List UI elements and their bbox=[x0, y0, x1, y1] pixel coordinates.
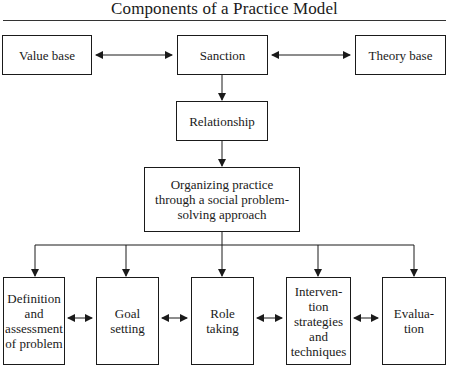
definition-assessment-label: Definition and assessment of problem bbox=[5, 291, 63, 351]
value-base-box: Value base bbox=[2, 35, 92, 75]
evaluation-label: Evalua- tion bbox=[394, 306, 434, 336]
relationship-box: Relationship bbox=[176, 101, 268, 141]
role-taking-label: Role taking bbox=[206, 306, 239, 336]
goal-setting-box: Goal setting bbox=[96, 277, 159, 365]
theory-base-label: Theory base bbox=[369, 48, 433, 63]
goal-setting-label: Goal setting bbox=[110, 306, 145, 336]
definition-assessment-box: Definition and assessment of problem bbox=[3, 277, 65, 365]
organizing-box: Organizing practice through a social pro… bbox=[144, 167, 300, 232]
evaluation-box: Evalua- tion bbox=[382, 277, 446, 365]
relationship-label: Relationship bbox=[189, 114, 255, 129]
intervention-strategies-box: Interven- tion strategies and techniques bbox=[286, 277, 351, 365]
sanction-label: Sanction bbox=[200, 48, 246, 63]
intervention-strategies-label: Interven- tion strategies and techniques bbox=[291, 284, 347, 359]
theory-base-box: Theory base bbox=[355, 35, 446, 75]
sanction-box: Sanction bbox=[177, 35, 268, 75]
role-taking-box: Role taking bbox=[191, 277, 254, 365]
value-base-label: Value base bbox=[19, 48, 75, 63]
organizing-label: Organizing practice through a social pro… bbox=[155, 177, 289, 222]
